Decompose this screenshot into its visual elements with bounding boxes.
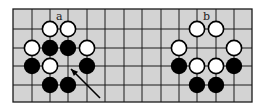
position-label: a [56,10,63,23]
black-stone [79,58,95,74]
black-stone [226,58,242,74]
white-stone [208,58,223,73]
white-stone [60,21,75,36]
black-stone [60,77,76,93]
white-stone [189,58,204,73]
white-stone [226,40,241,55]
black-stone [42,77,58,93]
black-stone [24,58,40,74]
white-stone [171,40,186,55]
black-stone [42,40,58,56]
white-stone [79,40,94,55]
position-label: b [203,10,210,23]
black-stone [189,77,205,93]
white-stone [189,21,204,36]
black-stone [60,40,76,56]
white-stone [208,21,223,36]
go-diagram: ab [0,0,267,109]
white-stone [42,58,57,73]
white-stone [24,40,39,55]
black-stone [208,77,224,93]
white-stone [42,21,57,36]
black-stone [171,58,187,74]
